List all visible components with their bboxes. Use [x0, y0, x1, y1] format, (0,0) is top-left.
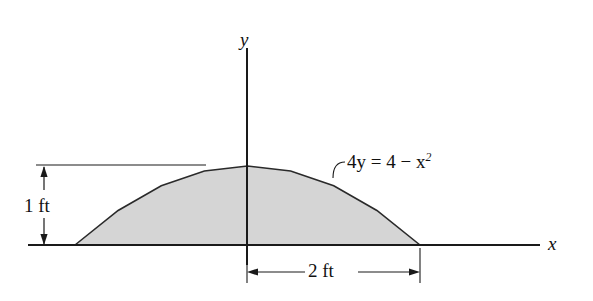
x-axis-label: x	[548, 234, 556, 253]
curve-equation-text: 4y = 4 − x	[347, 151, 425, 172]
curve-equation-exponent: 2	[425, 151, 431, 164]
parabola-figure	[0, 0, 593, 301]
curve-equation-label: 4y = 4 − x2	[347, 152, 431, 171]
y-axis-label: y	[240, 30, 248, 49]
width-dimension-label: 2 ft	[308, 261, 334, 280]
equation-leader-line	[333, 162, 345, 178]
height-dimension-label: 1 ft	[24, 196, 50, 215]
